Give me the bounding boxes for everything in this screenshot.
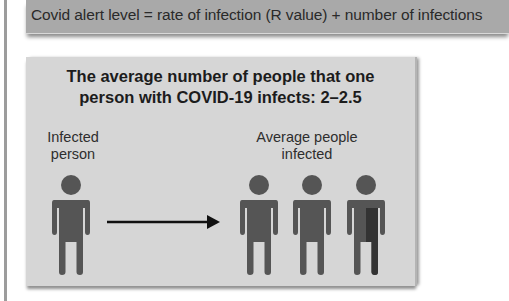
partial-infected-person-icon	[347, 175, 385, 275]
figures-illustration	[26, 57, 415, 286]
infected-person-icon-2	[293, 175, 331, 275]
infected-person-icon	[52, 175, 90, 275]
alert-level-banner: Covid alert level = rate of infection (R…	[26, 0, 509, 33]
r-value-infographic-panel: The average number of people that one pe…	[26, 57, 417, 286]
infected-person-icon-1	[240, 175, 278, 275]
left-border-rule	[4, 0, 7, 301]
transmission-arrow-icon	[107, 215, 220, 229]
alert-level-formula: Covid alert level = rate of infection (R…	[31, 6, 482, 24]
